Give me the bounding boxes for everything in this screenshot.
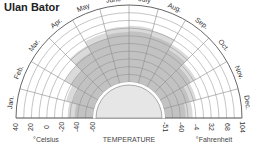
celsius-tick: 40 (12, 123, 19, 131)
month-label: Apr. (49, 16, 64, 30)
month-label: Nov. (234, 64, 246, 80)
month-label: June (105, 0, 121, 4)
fahrenheit-tick: 32 (208, 123, 215, 131)
fahrenheit-tick: 68 (224, 123, 231, 131)
celsius-tick: 0 (43, 125, 50, 129)
celsius-tick: -20 (58, 122, 65, 132)
month-label: Feb. (13, 64, 25, 80)
fahrenheit-axis-label: °Fahrenheit (196, 136, 232, 143)
month-label: Sep. (193, 16, 209, 31)
month-label: July (138, 0, 152, 5)
radial-temperature-chart: Jan.Feb.Mar.Apr.MayJuneJulyAug.Sep.Oct.N… (0, 0, 258, 148)
fahrenheit-tick: -40 (178, 122, 185, 132)
month-label: Dec. (243, 95, 252, 110)
temperature-axis-label: TEMPERATURE (103, 136, 156, 143)
celsius-tick: -60 (89, 122, 96, 132)
fahrenheit-tick: 104 (239, 121, 246, 133)
celsius-tick: -40 (73, 122, 80, 132)
month-label: Jan. (6, 95, 15, 109)
fahrenheit-tick: -51 (162, 122, 169, 132)
celsius-tick: 20 (27, 123, 34, 131)
fahrenheit-tick: -4 (193, 124, 200, 130)
celsius-axis-label: °Celsius (33, 136, 59, 143)
